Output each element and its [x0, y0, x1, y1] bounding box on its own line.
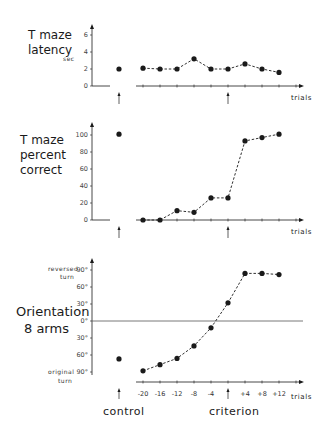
control-point — [116, 132, 121, 137]
control-arrow-icon — [118, 226, 121, 230]
data-point — [208, 325, 213, 330]
data-point — [208, 66, 213, 71]
control-arrow-icon — [118, 92, 121, 96]
data-point — [174, 208, 179, 213]
data-point — [276, 272, 281, 277]
y-axis-arrow-icon — [90, 122, 94, 127]
data-point — [157, 217, 162, 222]
data-line — [143, 273, 279, 370]
data-point — [157, 362, 162, 367]
chart-graphics — [0, 0, 334, 439]
data-point — [225, 66, 230, 71]
data-point — [259, 66, 264, 71]
y-axis-arrow-icon — [90, 258, 94, 263]
criterion-arrow-icon — [227, 226, 230, 230]
data-point — [242, 61, 247, 66]
criterion-arrow-icon — [227, 388, 230, 392]
data-point — [140, 217, 145, 222]
data-line — [143, 134, 279, 220]
y-axis-arrow-icon — [90, 24, 94, 29]
data-point — [208, 195, 213, 200]
control-point — [116, 356, 121, 361]
data-point — [259, 271, 264, 276]
data-point — [191, 56, 196, 61]
data-point — [225, 300, 230, 305]
data-point — [174, 66, 179, 71]
data-point — [140, 66, 145, 71]
data-point — [276, 132, 281, 137]
data-point — [242, 271, 247, 276]
data-point — [191, 343, 196, 348]
data-point — [242, 138, 247, 143]
control-point — [116, 66, 121, 71]
data-point — [225, 195, 230, 200]
data-point — [276, 70, 281, 75]
x-axis-arrow-icon — [299, 380, 304, 384]
data-point — [157, 66, 162, 71]
criterion-arrow-icon — [227, 92, 230, 96]
data-point — [259, 135, 264, 140]
data-point — [191, 210, 196, 215]
control-arrow-icon — [118, 388, 121, 392]
data-point — [140, 368, 145, 373]
x-axis-arrow-icon — [299, 84, 304, 88]
x-axis-arrow-icon — [299, 218, 304, 222]
data-point — [174, 356, 179, 361]
